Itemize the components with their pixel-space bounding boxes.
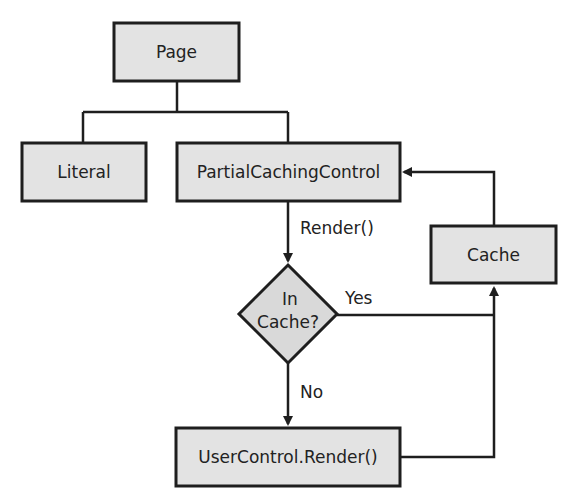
node-user-control-render: UserControl.Render()	[176, 428, 400, 486]
node-page-label: Page	[156, 42, 197, 62]
node-partial-caching-control-label: PartialCachingControl	[197, 162, 381, 182]
render-edge-label: Render()	[300, 218, 374, 238]
node-partial-caching-control: PartialCachingControl	[177, 143, 400, 201]
no-edge-label: No	[300, 382, 323, 402]
node-cache: Cache	[431, 226, 556, 283]
node-user-control-render-label: UserControl.Render()	[198, 447, 377, 467]
yes-edge-label: Yes	[344, 288, 373, 308]
node-cache-label: Cache	[467, 245, 520, 265]
node-literal: Literal	[22, 143, 146, 201]
node-literal-label: Literal	[57, 162, 110, 182]
decision-label-line1: In	[282, 289, 298, 309]
edge-cache-to-pcc	[404, 172, 494, 226]
node-page: Page	[114, 23, 239, 81]
edge-yes: Yes	[337, 288, 494, 315]
edge-no: No	[288, 363, 323, 424]
decision-label-line2: Cache?	[257, 312, 319, 332]
node-decision-in-cache: In Cache?	[239, 265, 337, 363]
edge-render: Render()	[288, 201, 374, 261]
flowchart-diagram: Render() Yes No Page Literal PartialCach…	[0, 0, 580, 504]
edge-page-to-children	[83, 81, 288, 143]
edge-ucr-to-cache	[400, 288, 494, 457]
